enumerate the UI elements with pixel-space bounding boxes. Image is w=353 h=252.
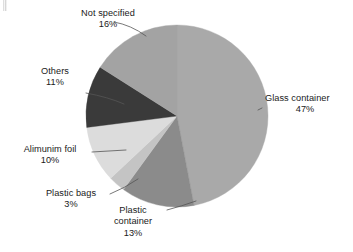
slice-label-alimunim-foil-value: 10%: [8, 155, 92, 166]
slice-label-others-name: Others: [20, 66, 90, 77]
slice-label-glass-container-name: Glass container: [265, 93, 351, 104]
slice-label-alimunim-foil-name: Alimunim foil: [8, 144, 92, 155]
pie-slice-glass-container: [177, 25, 268, 205]
slice-label-not-specified: Not specified 16%: [58, 8, 158, 31]
slice-label-not-specified-value: 16%: [58, 19, 158, 30]
slice-label-others: Others 11%: [20, 66, 90, 89]
slice-label-others-value: 11%: [20, 77, 90, 88]
slice-label-not-specified-name: Not specified: [58, 8, 158, 19]
pie-chart-svg: [0, 0, 353, 252]
slice-label-plastic-container: Plastic container 13%: [98, 205, 168, 239]
slice-label-alimunim-foil: Alimunim foil 10%: [8, 144, 92, 167]
slice-label-plastic-container-name-line2: container: [98, 216, 168, 227]
slice-label-plastic-bags-name: Plastic bags: [28, 188, 114, 199]
slice-label-glass-container: Glass container 47%: [265, 93, 351, 116]
slice-label-glass-container-value: 47%: [265, 104, 345, 115]
pie-slices: [86, 25, 268, 207]
slice-label-plastic-container-value: 13%: [98, 228, 168, 239]
pie-chart-figure: Not specified 16% Glass container 47% Ot…: [0, 0, 353, 252]
slice-label-plastic-container-name-line1: Plastic: [98, 205, 168, 216]
